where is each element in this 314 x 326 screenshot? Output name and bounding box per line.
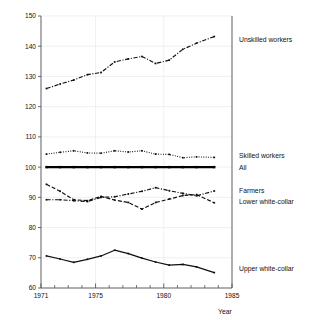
data-point-marker [100,255,102,257]
data-point-marker [87,258,89,260]
data-point-marker [213,272,215,274]
y-tick-label: 100 [25,164,36,171]
chart-canvas: 6070809010011012013014015019711975198019… [0,0,314,326]
data-point-marker [213,202,215,204]
data-point-marker [86,166,88,168]
data-point-marker [46,255,48,257]
data-point-marker [213,166,215,168]
data-point-marker [46,199,48,201]
gridlines [41,16,232,288]
data-point-marker [168,154,170,156]
data-point-marker [168,166,170,168]
data-point-marker [196,266,198,268]
data-point-marker [100,152,102,154]
data-point-marker [141,257,143,259]
data-point-marker [100,196,102,198]
data-point-marker [87,152,89,154]
data-point-marker [155,153,157,155]
data-point-marker [182,157,184,159]
data-point-marker [182,48,184,50]
data-point-marker [73,261,75,263]
data-point-marker [196,194,198,196]
data-point-marker [59,199,61,201]
data-point-marker [59,190,61,192]
data-point-marker [155,187,157,189]
data-point-marker [46,183,48,185]
y-tick-label: 70 [29,254,37,261]
series-line-skilled-workers [46,151,214,158]
data-point-marker [213,36,215,38]
data-point-marker [114,196,116,198]
data-point-marker [155,261,157,263]
series-line-unskilled-workers [46,37,214,89]
series-label-farmers: Farmers [239,187,264,195]
data-point-marker [114,249,116,251]
data-point-marker [213,157,215,159]
y-tick-label: 140 [25,43,36,50]
y-tick-label: 150 [25,12,36,19]
data-point-marker [168,59,170,61]
y-tick-label: 90 [29,194,37,201]
data-point-marker [114,61,116,63]
data-point-marker [155,63,157,65]
data-point-marker [73,79,75,81]
data-point-marker [59,151,61,153]
series-line-upper-white-collar [46,250,214,272]
data-point-marker [168,190,170,192]
data-point-marker [168,198,170,200]
line-chart: 6070809010011012013014015019711975198019… [0,0,314,326]
data-point-marker [45,166,47,168]
data-point-marker [195,166,197,168]
axes [41,16,232,288]
series-layer [45,36,215,274]
data-point-marker [59,83,61,85]
data-point-marker [127,58,129,60]
data-point-marker [182,264,184,266]
data-point-marker [154,166,156,168]
data-point-marker [141,166,143,168]
data-point-marker [113,166,115,168]
data-point-marker [127,253,129,255]
data-point-marker [155,202,157,204]
series-label-unskilled-workers: Unskilled workers [239,36,292,44]
data-point-marker [87,74,89,76]
data-point-marker [182,166,184,168]
data-point-marker [87,200,89,202]
data-point-marker [73,199,75,201]
data-point-marker [127,193,129,195]
data-point-marker [196,42,198,44]
data-point-marker [168,264,170,266]
data-point-marker [100,166,102,168]
data-point-marker [127,166,129,168]
data-point-marker [100,72,102,74]
series-label-all: All [239,164,247,172]
y-tick-label: 80 [29,224,37,231]
x-tick-label: 1980 [156,292,171,299]
data-point-marker [213,190,215,192]
data-point-marker [114,199,116,201]
x-tick-label: 1971 [34,292,49,299]
data-point-marker [196,156,198,158]
data-point-marker [114,150,116,152]
data-point-marker [73,150,75,152]
x-axis-ticks: 1971197519801985 [34,284,240,299]
data-point-marker [73,166,75,168]
data-point-marker [46,88,48,90]
x-tick-label: 1985 [225,292,240,299]
data-point-marker [141,150,143,152]
x-axis-title: Year [218,308,232,315]
data-point-marker [127,151,129,153]
y-tick-label: 60 [29,284,37,291]
data-point-marker [141,190,143,192]
series-label-skilled-workers: Skilled workers [239,152,285,160]
data-point-marker [127,202,129,204]
data-point-marker [141,56,143,58]
x-tick-label: 1975 [88,292,103,299]
y-axis-ticks: 60708090100110120130140150 [25,12,41,291]
data-point-marker [59,166,61,168]
y-tick-label: 110 [25,133,36,140]
series-line-lower-white-collar [46,184,214,209]
series-label-lower-white-collar: Lower white-collar [239,198,294,206]
data-point-marker [182,193,184,195]
y-tick-label: 130 [25,73,36,80]
